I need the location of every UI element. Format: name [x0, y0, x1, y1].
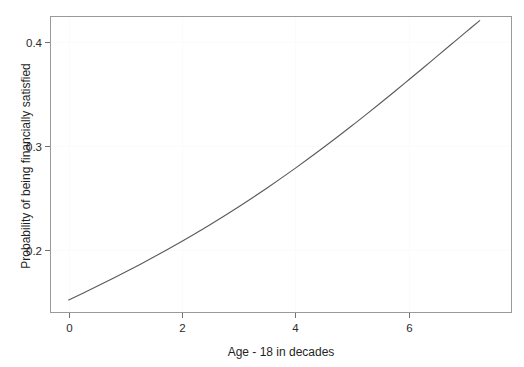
- x-tick-label: 6: [406, 322, 412, 334]
- y-tick-label: 0.4: [26, 37, 43, 49]
- y-axis-title: Probability of being financially satisfi…: [19, 63, 33, 268]
- x-tick-label: 2: [179, 322, 185, 334]
- x-tick-label: 4: [292, 322, 299, 334]
- chart-figure: 0.20.30.4 0246 Age - 18 in decades Proba…: [0, 0, 524, 367]
- plot-area-background: [50, 16, 512, 313]
- x-axis-title: Age - 18 in decades: [228, 345, 335, 359]
- x-tick-label: 0: [66, 322, 72, 334]
- chart-canvas: 0.20.30.4 0246 Age - 18 in decades Proba…: [0, 0, 524, 367]
